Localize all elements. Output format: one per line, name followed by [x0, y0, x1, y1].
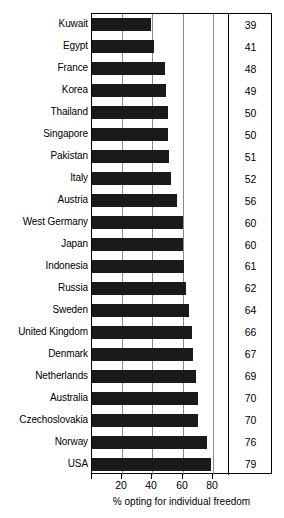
x-axis-tick-label: 60 — [170, 479, 194, 492]
category-label: Korea — [0, 84, 88, 95]
category-label: Kuwait — [0, 18, 88, 29]
category-label: Norway — [0, 436, 88, 447]
bar — [92, 436, 207, 449]
bar — [92, 106, 168, 119]
bar-chart: KuwaitEgyptFranceKoreaThailandSingaporeP… — [0, 0, 284, 518]
plot-frame: 3941484950505152566060616264666769707076… — [91, 13, 272, 474]
category-label: United Kingdom — [0, 326, 88, 337]
bars-area — [92, 14, 228, 475]
category-label: Indonesia — [0, 260, 88, 271]
bar-row — [92, 18, 228, 31]
bar-row — [92, 458, 228, 471]
category-label: Sweden — [0, 304, 88, 315]
bar-row — [92, 238, 228, 251]
bar-row — [92, 436, 228, 449]
category-label: Denmark — [0, 348, 88, 359]
bar-row — [92, 106, 228, 119]
value-cell: 60 — [229, 217, 272, 229]
bar-row — [92, 150, 228, 163]
value-cell: 79 — [229, 458, 272, 470]
category-label: Egypt — [0, 40, 88, 51]
value-cell: 70 — [229, 392, 272, 404]
bar-row — [92, 128, 228, 141]
bar — [92, 348, 193, 361]
bar — [92, 282, 186, 295]
bar — [92, 238, 183, 251]
category-label: Pakistan — [0, 150, 88, 161]
bar — [92, 216, 183, 229]
bar-row — [92, 194, 228, 207]
bar-row — [92, 392, 228, 405]
bar — [92, 194, 177, 207]
value-cell: 49 — [229, 85, 272, 97]
bar-row — [92, 172, 228, 185]
value-column: 3941484950505152566060616264666769707076… — [229, 14, 272, 475]
value-cell: 51 — [229, 151, 272, 163]
bar-row — [92, 326, 228, 339]
bar — [92, 392, 198, 405]
x-axis-tick-label: 40 — [139, 479, 163, 492]
bar-row — [92, 84, 228, 97]
bar-row — [92, 216, 228, 229]
bar — [92, 62, 165, 75]
category-label: West Germany — [0, 216, 88, 227]
category-label: Russia — [0, 282, 88, 293]
category-label: Netherlands — [0, 370, 88, 381]
value-cell: 39 — [229, 19, 272, 31]
bar — [92, 458, 211, 471]
bar — [92, 304, 189, 317]
bar-row — [92, 370, 228, 383]
bar — [92, 326, 192, 339]
category-label: Czechoslovakia — [0, 414, 88, 425]
x-axis-tick-label: 20 — [109, 479, 133, 492]
value-cell: 67 — [229, 348, 272, 360]
value-cell: 76 — [229, 436, 272, 448]
value-cell: 48 — [229, 63, 272, 75]
bar-row — [92, 414, 228, 427]
category-label: Austria — [0, 194, 88, 205]
category-label: Italy — [0, 172, 88, 183]
bar — [92, 414, 198, 427]
bar — [92, 150, 169, 163]
value-cell: 50 — [229, 129, 272, 141]
bar-row — [92, 348, 228, 361]
category-label: Singapore — [0, 128, 88, 139]
value-cell: 66 — [229, 326, 272, 338]
bar — [92, 172, 171, 185]
bar — [92, 40, 154, 53]
value-cell: 64 — [229, 304, 272, 316]
value-cell: 41 — [229, 41, 272, 53]
bar — [92, 18, 151, 31]
category-label: France — [0, 62, 88, 73]
category-label: Australia — [0, 392, 88, 403]
bar — [92, 84, 166, 97]
value-cell: 69 — [229, 370, 272, 382]
bar-row — [92, 62, 228, 75]
bar-row — [92, 304, 228, 317]
value-cell: 61 — [229, 260, 272, 272]
value-cell: 52 — [229, 173, 272, 185]
x-axis-tick-labels: 20406080 — [91, 479, 272, 493]
value-cell: 50 — [229, 107, 272, 119]
bar-row — [92, 260, 228, 273]
value-cell: 70 — [229, 414, 272, 426]
category-labels: KuwaitEgyptFranceKoreaThailandSingaporeP… — [0, 13, 88, 474]
bar — [92, 128, 168, 141]
value-cell: 62 — [229, 282, 272, 294]
category-label: Thailand — [0, 106, 88, 117]
x-axis-title: % opting for individual freedom — [91, 495, 272, 508]
bar-row — [92, 282, 228, 295]
bar-row — [92, 40, 228, 53]
bar — [92, 370, 196, 383]
bar — [92, 260, 184, 273]
category-label: Japan — [0, 238, 88, 249]
x-axis-tick-label: 80 — [200, 479, 224, 492]
category-label: USA — [0, 458, 88, 469]
value-cell: 56 — [229, 195, 272, 207]
value-cell: 60 — [229, 239, 272, 251]
